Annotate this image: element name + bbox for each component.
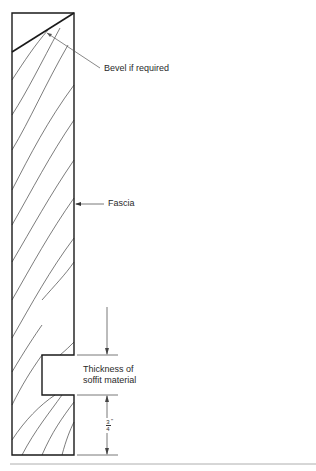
- arrow-down-icon: [105, 448, 109, 455]
- fraction-denominator: 4: [103, 426, 113, 432]
- bevel-arrowhead-icon: [47, 33, 52, 37]
- fascia-diagram: Bevel if required Fascia Thickness of so…: [0, 0, 316, 471]
- soffit-label-line2: soffit material: [83, 375, 136, 386]
- bevel-label: Bevel if required: [104, 63, 169, 74]
- wood-grain-hatching: [12, 28, 74, 455]
- dimension-unit: ": [111, 418, 113, 424]
- bevel-line: [12, 13, 74, 52]
- fascia-label: Fascia: [108, 198, 135, 209]
- arrow-up-icon: [105, 395, 109, 402]
- soffit-label-line1: Thickness of: [83, 364, 134, 375]
- fascia-arrowhead-icon: [75, 202, 81, 206]
- fascia-outline: [12, 13, 74, 455]
- arrow-down-icon: [105, 348, 109, 355]
